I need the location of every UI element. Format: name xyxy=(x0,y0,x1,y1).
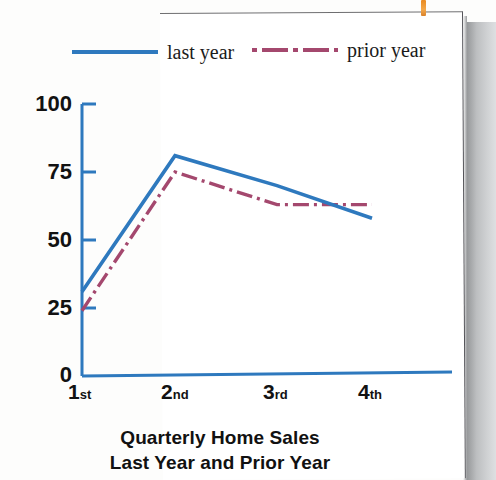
y-tick-label-100: 100 xyxy=(2,93,72,115)
y-tick-label-25: 25 xyxy=(2,297,72,319)
x-axis-line xyxy=(82,372,452,376)
y-tick-label-50: 50 xyxy=(2,229,72,251)
series-line-prior-year xyxy=(82,172,372,311)
x-tick-label-4th: 4th xyxy=(358,381,382,402)
series-line-last-year xyxy=(82,156,372,292)
x-tick-suffix-nd: nd xyxy=(173,387,189,402)
x-tick-suffix-rd: rd xyxy=(275,387,288,402)
x-tick-label-3rd: 3rd xyxy=(263,381,288,402)
x-tick-num-4: 4 xyxy=(358,380,370,403)
line-chart: last year prior year xyxy=(0,0,496,480)
chart-title-line-2: Last Year and Prior Year xyxy=(0,450,440,475)
plot-canvas xyxy=(0,0,496,480)
x-tick-label-2nd: 2nd xyxy=(161,381,189,402)
x-tick-num-1: 1 xyxy=(68,380,80,403)
x-tick-suffix-st: st xyxy=(80,387,92,402)
x-tick-num-2: 2 xyxy=(161,380,173,403)
x-tick-label-1st: 1st xyxy=(68,381,91,402)
screenshot-scene: last year prior year xyxy=(0,0,496,480)
chart-title-line-1: Quarterly Home Sales xyxy=(120,427,319,448)
y-tick-label-75: 75 xyxy=(2,161,72,183)
chart-title: Quarterly Home Sales Last Year and Prior… xyxy=(0,425,440,475)
y-tick-label-0: 0 xyxy=(2,364,72,386)
x-tick-suffix-th: th xyxy=(370,387,382,402)
x-tick-num-3: 3 xyxy=(263,380,275,403)
